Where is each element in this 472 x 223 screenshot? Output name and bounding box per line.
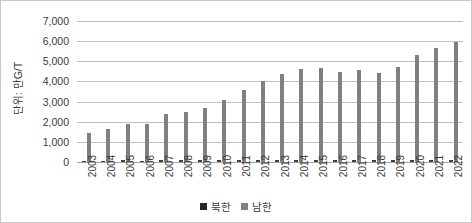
bar-group <box>135 21 154 162</box>
legend-swatch-icon <box>241 203 248 210</box>
x-axis-tick: 2005 <box>116 164 135 198</box>
x-axis-tick: 2011 <box>231 164 250 198</box>
x-axis-tick: 2019 <box>386 164 405 198</box>
x-axis-tick: 2014 <box>289 164 308 198</box>
x-axis-tick: 2016 <box>328 164 347 198</box>
bar <box>242 90 246 162</box>
bar-group <box>270 21 289 162</box>
x-axis-tick: 2003 <box>77 164 96 198</box>
bar <box>101 161 105 162</box>
bar <box>429 160 433 162</box>
y-axis-tick: 3,000 <box>43 96 69 108</box>
x-axis-tick: 2020 <box>405 164 424 198</box>
x-axis-tick: 2013 <box>270 164 289 198</box>
x-axis-tick-labels: 2003200420052006200720082009201020112012… <box>77 164 463 198</box>
bar <box>333 160 337 162</box>
bar <box>372 160 376 162</box>
bar <box>237 160 241 162</box>
x-axis-tick: 2018 <box>366 164 385 198</box>
bar <box>294 160 298 162</box>
x-axis-tick: 2022 <box>444 164 463 198</box>
bar <box>275 160 279 162</box>
bar-group <box>251 21 270 162</box>
x-axis-tick: 2010 <box>212 164 231 198</box>
x-axis-tick: 2007 <box>154 164 173 198</box>
bar <box>261 81 265 162</box>
bar-group <box>289 21 308 162</box>
bar <box>410 160 414 162</box>
bar <box>434 48 438 162</box>
bar-group <box>154 21 173 162</box>
bar-group <box>386 21 405 162</box>
bar-group <box>116 21 135 162</box>
bar-group <box>424 21 443 162</box>
bars-layer <box>77 21 463 162</box>
bar-group <box>212 21 231 162</box>
x-axis-tick: 2021 <box>424 164 443 198</box>
legend-label: 남한 <box>252 199 272 214</box>
x-axis-tick: 2006 <box>135 164 154 198</box>
bar <box>217 160 221 162</box>
legend-swatch-icon <box>200 203 207 210</box>
bar <box>338 72 342 162</box>
y-axis-tick: 6,000 <box>43 35 69 47</box>
bar <box>82 161 86 162</box>
y-axis-tick-labels: 7,0006,0005,0004,0003,0002,0001,0000 <box>29 15 73 163</box>
y-axis-title: 단위: 만G/T <box>7 1 29 176</box>
chart-container: 단위: 만G/T 7,0006,0005,0004,0003,0002,0001… <box>0 0 472 223</box>
bar-group <box>444 21 463 162</box>
bar-group <box>96 21 115 162</box>
y-axis-tick: 0 <box>63 156 69 168</box>
y-axis-tick: 7,000 <box>43 15 69 27</box>
legend-item[interactable]: 북한 <box>200 199 231 214</box>
x-axis-tick-label: 2022 <box>453 155 464 177</box>
y-axis-tick: 5,000 <box>43 55 69 67</box>
y-axis-tick: 2,000 <box>43 116 69 128</box>
legend-label: 북한 <box>211 199 231 214</box>
bar <box>140 161 144 163</box>
bar <box>454 42 458 162</box>
bar-group <box>173 21 192 162</box>
chart-legend: 북한남한 <box>1 199 471 214</box>
bar <box>222 100 226 162</box>
y-axis-tick: 1,000 <box>43 136 69 148</box>
bar-group <box>328 21 347 162</box>
legend-item[interactable]: 남한 <box>241 199 272 214</box>
bar <box>319 68 323 162</box>
bar-group <box>347 21 366 162</box>
bar <box>280 74 284 162</box>
bar <box>352 160 356 162</box>
x-axis-tick: 2017 <box>347 164 366 198</box>
bar <box>357 70 361 162</box>
y-axis-tick: 4,000 <box>43 75 69 87</box>
bar-group <box>366 21 385 162</box>
bar-group <box>309 21 328 162</box>
bar-group <box>193 21 212 162</box>
bar <box>396 67 400 162</box>
bar-group <box>405 21 424 162</box>
bar <box>159 160 163 162</box>
x-axis-tick: 2004 <box>96 164 115 198</box>
bar <box>299 69 303 162</box>
x-axis-tick: 2012 <box>251 164 270 198</box>
bar <box>377 73 381 162</box>
plot-area <box>77 21 463 162</box>
bar-group <box>77 21 96 162</box>
x-axis-tick: 2015 <box>309 164 328 198</box>
x-axis-tick: 2009 <box>193 164 212 198</box>
y-axis-title-label: 단위: 만G/T <box>11 62 26 115</box>
x-axis-tick: 2008 <box>173 164 192 198</box>
bar <box>415 55 419 162</box>
bar-group <box>231 21 250 162</box>
